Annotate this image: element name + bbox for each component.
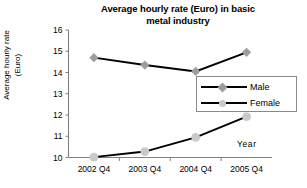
y-tick-label: 15 [53,46,63,56]
y-tick-label: 12 [53,110,63,120]
data-point-marker [242,112,251,121]
x-tick-labels: 2002 Q42003 Q42004 Q42005 Q4 [78,164,264,174]
y-tick-labels: 10111213141516 [53,25,63,163]
data-point-marker [140,147,149,156]
y-tick-label: 14 [53,68,63,78]
y-tick-label: 13 [53,89,63,99]
chart-container: Average hourly rate (Euro) in basic meta… [0,0,307,188]
chart-legend: Male Female [196,76,297,112]
legend-label-male: Male [247,82,270,92]
y-tick-label: 10 [53,153,63,163]
x-axis: 2002 Q42003 Q42004 Q42005 Q4 [69,158,273,174]
y-tick-label: 11 [54,131,63,141]
x-tick-label: 2004 Q4 [179,164,212,174]
x-tick-label: 2005 Q4 [230,164,263,174]
series-line [94,52,247,71]
data-point-marker [191,67,200,76]
data-point-marker [140,60,149,69]
data-point-marker [90,153,99,162]
series-male [89,48,251,76]
y-tick-label: 16 [53,25,63,35]
data-point-marker [242,48,251,57]
x-tick-label: 2002 Q4 [78,164,111,174]
series-female [90,112,251,161]
x-axis-title: Year [237,139,257,149]
legend-marker-male [201,81,247,93]
legend-marker-female [201,97,247,109]
data-point-marker [89,53,98,62]
legend-item-male: Male [201,79,294,94]
data-point-marker [191,133,200,142]
legend-item-female: Female [201,95,294,110]
legend-label-female: Female [247,98,280,108]
series-line [94,117,247,157]
y-axis: 10111213141516 [53,25,68,163]
x-tick-label: 2003 Q4 [129,164,162,174]
